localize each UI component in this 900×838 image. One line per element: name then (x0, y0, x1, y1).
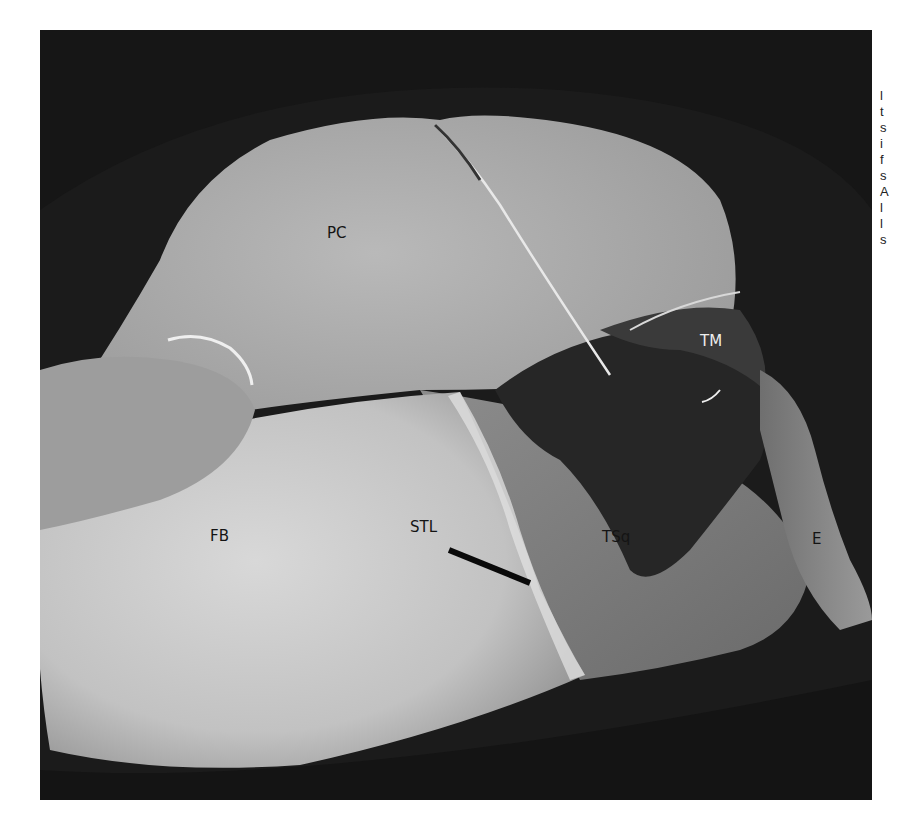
label-tsq: TSq (602, 530, 630, 545)
caption-line: l (880, 216, 900, 232)
label-e: E (812, 532, 821, 547)
label-fb: FB (210, 529, 229, 544)
caption-line: A (880, 184, 900, 200)
caption-line: s (880, 120, 900, 136)
label-pc: PC (327, 226, 347, 241)
label-tm: TM (700, 334, 722, 349)
caption-line: s (880, 168, 900, 184)
figure-caption-cropped: l t s i f s A l l s (880, 88, 900, 248)
caption-line: l (880, 88, 900, 104)
dissection-photo: PC TM FB STL TSq E (40, 30, 872, 800)
photo-illustration (40, 30, 872, 800)
label-stl: STL (410, 520, 437, 535)
caption-line: s (880, 232, 900, 248)
caption-line: l (880, 200, 900, 216)
caption-line: i (880, 136, 900, 152)
caption-line: t (880, 104, 900, 120)
caption-line: f (880, 152, 900, 168)
